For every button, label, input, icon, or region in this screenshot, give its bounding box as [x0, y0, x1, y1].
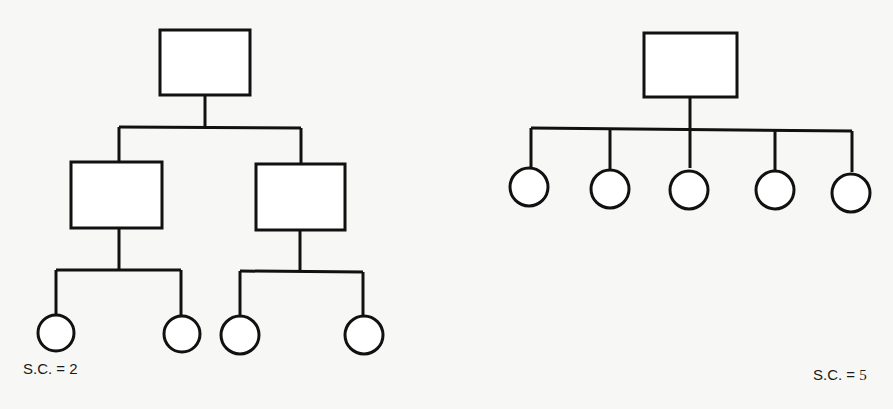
span-of-control-label-right: S.C. = 5	[813, 366, 867, 384]
worker-circle	[38, 315, 74, 351]
top-manager-box	[644, 33, 737, 97]
connector	[240, 271, 363, 272]
subordinate-circle	[832, 174, 870, 212]
middle-manager-box-left	[71, 162, 162, 228]
worker-circle	[164, 316, 200, 352]
worker-circle	[221, 316, 259, 354]
span-of-control-label-left: S.C. = 2	[23, 360, 78, 377]
connector	[119, 127, 301, 128]
subordinate-circle	[510, 168, 548, 206]
tall-hierarchy	[38, 30, 383, 354]
span-of-control-prefix: S.C. =	[813, 366, 855, 383]
flat-hierarchy	[510, 33, 870, 212]
org-structure-diagram	[0, 0, 893, 409]
span-of-control-value: 5	[859, 367, 867, 383]
subordinate-circle	[591, 170, 629, 208]
middle-manager-box-right	[256, 164, 345, 230]
connector	[531, 128, 852, 131]
worker-circle	[345, 316, 383, 354]
subordinate-circle	[756, 171, 794, 209]
top-manager-box	[160, 30, 250, 95]
subordinate-circle	[670, 171, 708, 209]
